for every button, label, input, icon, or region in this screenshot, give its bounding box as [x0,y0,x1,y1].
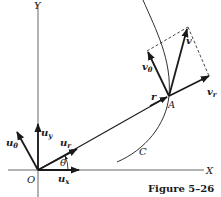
r-label: r [151,91,157,102]
u-y-label: uy [41,127,53,140]
v-r-label: vr [207,86,218,99]
vector-u-r [38,149,77,170]
x-axis-label: X [205,165,214,176]
polar-velocity-diagram: Y X O C A θ r uy ux ur uθ v vr vθ Figure… [0,0,221,197]
u-theta-label: uθ [6,137,18,150]
v-label: v [186,35,192,46]
theta-label: θ [60,157,66,168]
v-theta-label: vθ [142,61,153,74]
u-x-label: ux [58,173,70,186]
vector-u-theta [17,132,38,170]
point-a-label: A [167,99,175,110]
y-axis-label: Y [34,0,42,11]
vector-v [169,29,187,96]
origin-label: O [27,174,35,185]
curve-label: C [139,146,147,157]
u-r-label: ur [60,137,72,150]
vector-v-r [169,76,209,96]
figure-caption: Figure 5–26 [148,183,214,194]
